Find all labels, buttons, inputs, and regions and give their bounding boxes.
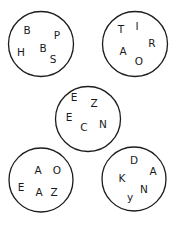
letter: y [127, 191, 133, 203]
letter: C [80, 121, 87, 133]
letter-circles-puzzle: B H B P S T I R A O E Z E C N A O E A Z … [0, 0, 174, 228]
letter-circle-top-right: T I R A O [103, 12, 168, 77]
letter: E [18, 181, 25, 193]
letter: E [66, 111, 73, 123]
letter-circle-bottom-left: A O E A Z [9, 148, 73, 212]
letter: A [149, 165, 157, 177]
letter: A [34, 164, 42, 176]
letter: B [23, 24, 30, 36]
letter: O [53, 164, 61, 176]
letter: T [117, 23, 125, 35]
letter-circle-top-left: B H B P S [9, 12, 74, 77]
letter: Z [50, 186, 57, 198]
letter: Z [90, 97, 97, 109]
letter: O [135, 55, 143, 67]
letter: D [130, 154, 138, 166]
letter: A [119, 45, 127, 57]
letter: B [39, 42, 46, 54]
letter: S [50, 53, 57, 65]
letter: H [17, 46, 25, 58]
letter: N [140, 183, 148, 195]
letter: I [135, 20, 138, 32]
letter: K [119, 172, 127, 184]
letter: N [99, 118, 107, 130]
letter: R [148, 37, 155, 49]
letter-circle-middle: E Z E C N [56, 87, 121, 152]
letter: A [35, 186, 43, 198]
letter: P [54, 29, 60, 41]
circle-outline [9, 148, 73, 212]
letter: E [71, 91, 78, 103]
letter-circle-bottom-right: D A K N y [102, 147, 166, 211]
